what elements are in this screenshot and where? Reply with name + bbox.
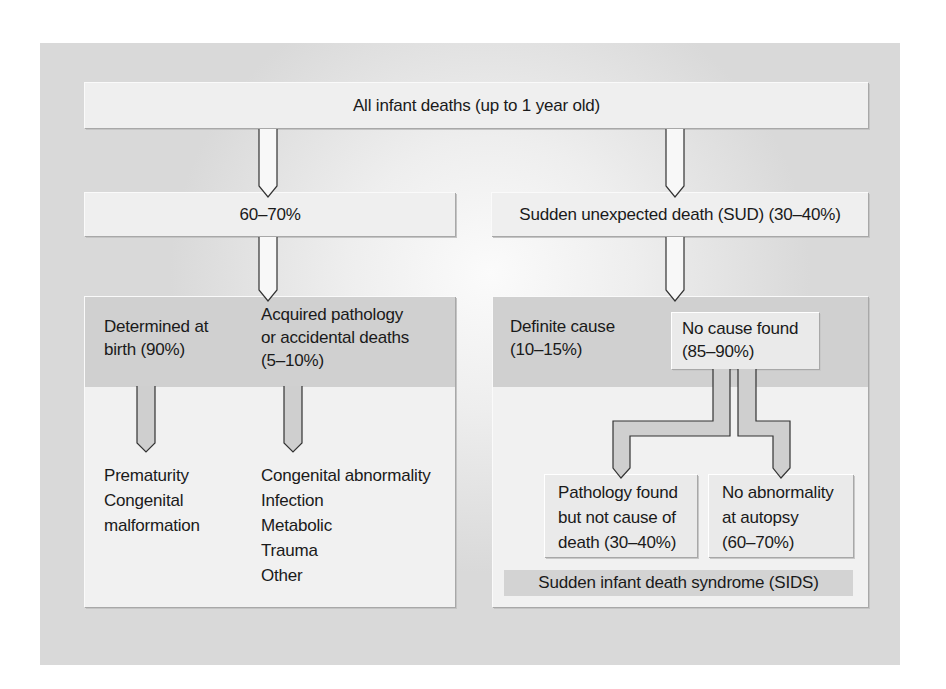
arrow-down-icon: [259, 129, 277, 197]
arrow-down-icon: [666, 237, 684, 301]
arrow-down-icon: [666, 129, 684, 197]
branch-arrow-left-icon: [613, 369, 730, 478]
arrow-down-icon: [284, 386, 302, 452]
branch-arrow-right-icon: [738, 369, 790, 478]
arrow-down-icon: [259, 237, 277, 301]
arrow-down-icon: [137, 386, 155, 452]
connector-arrows: [0, 0, 946, 689]
